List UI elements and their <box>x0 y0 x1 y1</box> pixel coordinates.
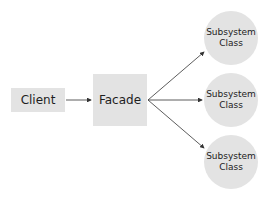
subsystem-label-line1: Subsystem <box>206 89 256 100</box>
subsystem-node-2: Subsystem Class <box>204 73 258 127</box>
client-label: Client <box>21 93 56 107</box>
subsystem-node-1: Subsystem Class <box>204 11 258 65</box>
facade-label: Facade <box>99 93 141 107</box>
subsystem-node-3: Subsystem Class <box>204 135 258 189</box>
facade-node: Facade <box>93 74 147 126</box>
subsystem-label-line2: Class <box>219 100 243 111</box>
subsystem-label-line2: Class <box>219 162 243 173</box>
subsystem-label-line1: Subsystem <box>206 27 256 38</box>
subsystem-label-line2: Class <box>219 38 243 49</box>
client-node: Client <box>11 88 65 112</box>
subsystem-label-line1: Subsystem <box>206 151 256 162</box>
